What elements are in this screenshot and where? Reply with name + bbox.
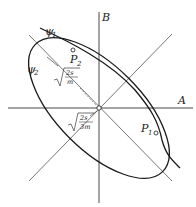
leader-radius-outer xyxy=(80,88,96,105)
origin-point xyxy=(97,106,101,110)
diagram-canvas: A B ψ 1 ψ 2 P 1 P 2 2s m 2s 3m xyxy=(0,0,196,207)
p1-subscript: 1 xyxy=(148,129,152,137)
point-p1 xyxy=(154,131,158,135)
axis-a-label: A xyxy=(177,94,186,107)
axis-b-label: B xyxy=(101,11,110,24)
leader-radius-inner xyxy=(90,111,97,116)
psi2-subscript: 2 xyxy=(33,69,39,77)
p2-subscript: 2 xyxy=(76,60,82,68)
leader-psi2 xyxy=(47,57,58,66)
point-p2 xyxy=(71,48,75,52)
radius-inner-denominator: 3m xyxy=(80,123,90,131)
radius-outer-denominator: m xyxy=(67,78,73,86)
psi1-subscript: 1 xyxy=(52,31,56,39)
radius-outer-numerator: 2s xyxy=(65,69,74,77)
radius-inner-numerator: 2s xyxy=(79,114,88,122)
